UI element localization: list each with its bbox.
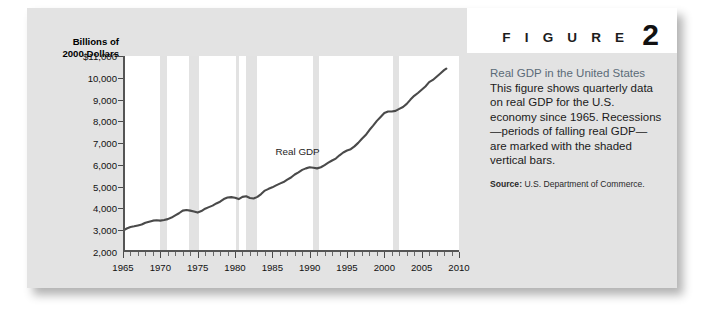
x-tick-label: 1970 bbox=[150, 262, 171, 273]
x-tick-mark-minor bbox=[257, 252, 258, 256]
x-tick-mark-minor bbox=[138, 252, 139, 256]
x-tick-mark-minor bbox=[362, 252, 363, 256]
x-tick-mark-minor bbox=[145, 252, 146, 256]
x-tick-mark-minor bbox=[168, 252, 169, 256]
x-tick-label: 1980 bbox=[224, 262, 245, 273]
x-tick-mark-minor bbox=[302, 252, 303, 256]
caption-source-text: U.S. Department of Commerce. bbox=[522, 179, 645, 189]
x-tick-label: 2000 bbox=[374, 262, 395, 273]
x-tick-label: 2010 bbox=[448, 262, 469, 273]
y-tick-mark bbox=[118, 143, 123, 144]
x-tick-mark-minor bbox=[340, 252, 341, 256]
x-tick-mark-major bbox=[198, 252, 199, 258]
x-tick-mark-major bbox=[459, 252, 460, 258]
x-tick-mark-minor bbox=[414, 252, 415, 256]
y-tick-label: 4,000 bbox=[47, 203, 117, 214]
figure-caption: Real GDP in the United States This figur… bbox=[490, 66, 663, 190]
x-tick-mark-minor bbox=[250, 252, 251, 256]
x-tick-mark-major bbox=[160, 252, 161, 258]
x-tick-mark-minor bbox=[175, 252, 176, 256]
plot-area: 2,0003,0004,0005,0006,0007,0008,0009,000… bbox=[123, 56, 459, 252]
x-tick-mark-minor bbox=[437, 252, 438, 256]
series-inline-label: Real GDP bbox=[276, 146, 320, 157]
y-tick-mark bbox=[118, 78, 123, 79]
x-tick-mark-minor bbox=[429, 252, 430, 256]
x-tick-mark-major bbox=[235, 252, 236, 258]
x-tick-mark-minor bbox=[377, 252, 378, 256]
caption-title: Real GDP in the United States bbox=[490, 66, 663, 81]
x-tick-mark-minor bbox=[220, 252, 221, 256]
x-tick-mark-minor bbox=[153, 252, 154, 256]
y-tick-mark bbox=[118, 121, 123, 122]
y-tick-label: 7,000 bbox=[47, 138, 117, 149]
x-tick-mark-major bbox=[422, 252, 423, 258]
x-tick-mark-minor bbox=[399, 252, 400, 256]
x-tick-mark-minor bbox=[295, 252, 296, 256]
x-tick-mark-minor bbox=[325, 252, 326, 256]
x-tick-label: 1985 bbox=[262, 262, 283, 273]
y-tick-mark bbox=[118, 56, 123, 57]
y-tick-mark bbox=[118, 165, 123, 166]
caption-body: This figure shows quarterly data on real… bbox=[490, 81, 663, 169]
x-tick-mark-minor bbox=[183, 252, 184, 256]
y-tick-mark bbox=[118, 230, 123, 231]
x-tick-mark-minor bbox=[130, 252, 131, 256]
x-tick-label: 1965 bbox=[112, 262, 133, 273]
y-tick-label: 10,000 bbox=[47, 72, 117, 83]
x-tick-mark-minor bbox=[452, 252, 453, 256]
y-tick-mark bbox=[118, 208, 123, 209]
chart-area: Billions of 2000 Dollars 2,0003,0004,000… bbox=[41, 20, 471, 282]
y-tick-label: 5,000 bbox=[47, 181, 117, 192]
x-tick-mark-minor bbox=[332, 252, 333, 256]
x-tick-label: 2005 bbox=[411, 262, 432, 273]
x-tick-mark-minor bbox=[280, 252, 281, 256]
x-tick-mark-minor bbox=[265, 252, 266, 256]
x-tick-mark-minor bbox=[317, 252, 318, 256]
x-tick-mark-minor bbox=[205, 252, 206, 256]
x-tick-mark-minor bbox=[287, 252, 288, 256]
y-tick-label: 9,000 bbox=[47, 94, 117, 105]
x-tick-mark-minor bbox=[407, 252, 408, 256]
y-tick-label: 2,000 bbox=[47, 247, 117, 258]
x-tick-label: 1990 bbox=[299, 262, 320, 273]
x-tick-mark-major bbox=[310, 252, 311, 258]
figure-header: F I G U R E 2 bbox=[502, 17, 659, 47]
x-tick-mark-minor bbox=[213, 252, 214, 256]
y-tick-mark bbox=[118, 100, 123, 101]
x-tick-label: 1995 bbox=[336, 262, 357, 273]
x-tick-mark-minor bbox=[242, 252, 243, 256]
y-tick-mark bbox=[118, 187, 123, 188]
x-tick-mark-major bbox=[272, 252, 273, 258]
y-tick-label: 3,000 bbox=[47, 225, 117, 236]
y-axis-line bbox=[123, 56, 125, 252]
x-tick-label: 1975 bbox=[187, 262, 208, 273]
caption-source-label: Source: bbox=[490, 179, 522, 189]
y-tick-label: 6,000 bbox=[47, 159, 117, 170]
y-axis-title-line1: Billions of bbox=[41, 36, 119, 48]
x-axis-line bbox=[123, 250, 459, 252]
x-tick-mark-minor bbox=[190, 252, 191, 256]
caption-source: Source: U.S. Department of Commerce. bbox=[490, 179, 663, 190]
figure-number-label: 2 bbox=[642, 20, 659, 50]
y-tick-label: 8,000 bbox=[47, 116, 117, 127]
x-tick-mark-major bbox=[347, 252, 348, 258]
x-tick-mark-minor bbox=[369, 252, 370, 256]
figure-panel: F I G U R E 2 Billions of 2000 Dollars 2… bbox=[27, 8, 677, 288]
x-tick-mark-major bbox=[123, 252, 124, 258]
x-tick-mark-minor bbox=[392, 252, 393, 256]
x-tick-mark-minor bbox=[228, 252, 229, 256]
x-tick-mark-major bbox=[384, 252, 385, 258]
x-tick-mark-minor bbox=[354, 252, 355, 256]
x-tick-mark-minor bbox=[444, 252, 445, 256]
y-tick-label: $11,000 bbox=[47, 51, 117, 62]
figure-word-label: F I G U R E bbox=[502, 30, 629, 45]
